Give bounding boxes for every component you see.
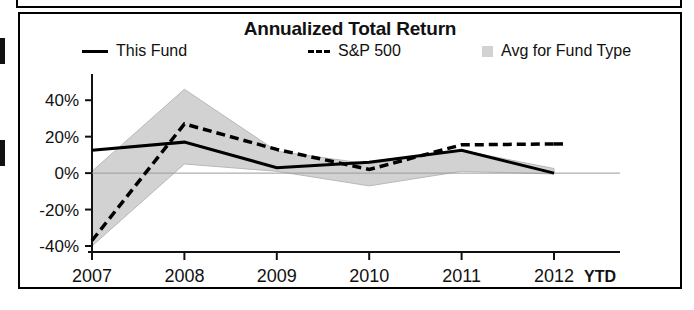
y-axis-tick-label: 0% — [54, 164, 79, 183]
y-axis-tick-label: -40% — [39, 237, 79, 256]
plot-svg: 40%20%0%-20%-40% 20072008200920102011201… — [20, 14, 684, 291]
top-box-fragment — [16, 0, 682, 8]
chart-panel: Annualized Total Return This Fund S&P 50… — [18, 12, 682, 289]
x-axis-tick-label: 2009 — [257, 266, 297, 286]
y-axis-tick-label: -20% — [39, 201, 79, 220]
x-axis-tick-label: 2012 — [534, 266, 574, 286]
x-axis-tick-label: 2010 — [349, 266, 389, 286]
y-axis-tick-labels: 40%20%0%-20%-40% — [39, 91, 79, 256]
avg-fund-type-band — [92, 89, 554, 246]
band-polygon — [92, 89, 554, 246]
x-axis-ytd-suffix: YTD — [584, 268, 616, 285]
x-axis-tick-labels: 200720082009201020112012YTD — [72, 266, 616, 286]
y-axis-tick-label: 40% — [45, 91, 79, 110]
left-margin-stub-upper — [0, 38, 5, 64]
x-axis-tick-label: 2007 — [72, 266, 112, 286]
left-margin-stub-lower — [0, 140, 5, 166]
plot-area: 40%20%0%-20%-40% 20072008200920102011201… — [20, 14, 684, 291]
x-axis-tick-label: 2008 — [164, 266, 204, 286]
x-axis-tick-label: 2011 — [442, 266, 481, 286]
y-axis-tick-label: 20% — [45, 128, 79, 147]
